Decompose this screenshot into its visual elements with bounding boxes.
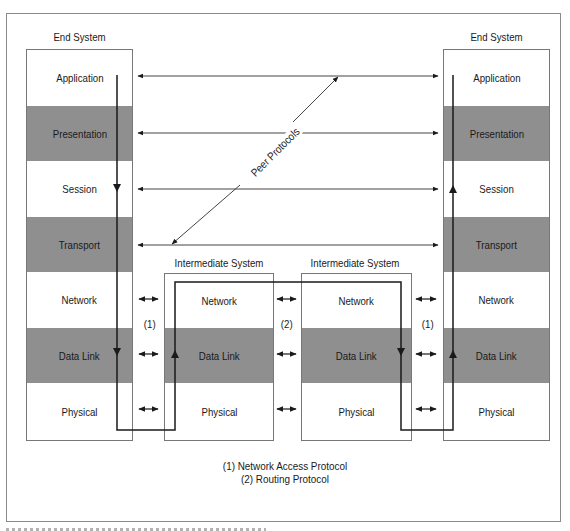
legend-item-network-access: (1) Network Access Protocol [29,460,542,473]
connection-lines [0,0,570,531]
link-arrows [139,299,436,409]
legend-item-routing: (2) Routing Protocol [29,473,542,486]
data-path [117,75,453,430]
link-marker-middle: (2) [281,318,293,330]
clipped-caption [6,525,266,531]
peer-arrows [138,76,438,245]
legend: (1) Network Access Protocol (2) Routing … [0,460,570,486]
link-marker-left: (1) [144,318,156,330]
link-marker-right: (1) [422,318,434,330]
